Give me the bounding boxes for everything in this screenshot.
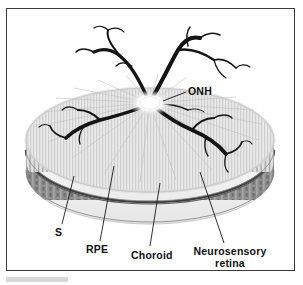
optic-nerve-head [128,90,172,116]
label-neurosensory-retina: Neurosensory retina [188,245,272,269]
label-neurosensory-retina-line2: retina [215,257,245,269]
eye-model-illustration [0,0,303,285]
figure-container: ONH S RPE Choroid Neurosensory retina [0,0,303,285]
label-rpe: RPE [86,243,108,255]
label-neurosensory-retina-line1: Neurosensory [193,245,266,257]
label-choroid: Choroid [131,249,173,261]
label-sclera: S [55,226,62,238]
label-onh: ONH [188,85,212,97]
retinal-surface [26,26,274,192]
